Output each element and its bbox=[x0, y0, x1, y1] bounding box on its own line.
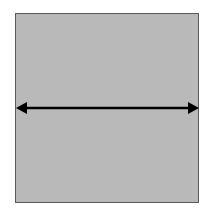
double-arrow-icon bbox=[0, 0, 213, 219]
